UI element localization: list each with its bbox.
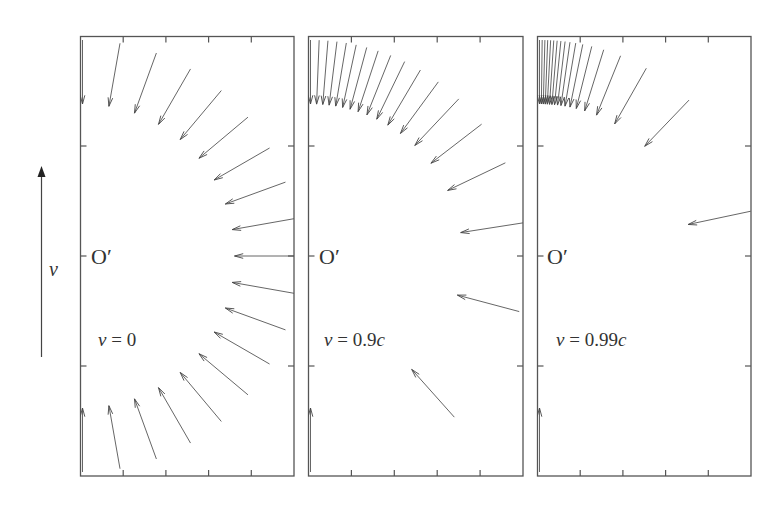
ray-arrows: [308, 40, 524, 472]
panel-v0: O′v = 0: [80, 37, 298, 477]
panel-v09c: O′v = 0.9c: [308, 37, 524, 477]
velocity-value-label: v = 0.99c: [556, 329, 627, 350]
arrowhead-icon: [214, 174, 223, 180]
aberration-figure: v O′v = 0O′v = 0.9cO′v = 0.99c: [0, 0, 784, 508]
arrowhead-icon: [448, 185, 457, 191]
arrowhead-icon: [377, 110, 383, 119]
origin-label: O′: [547, 244, 568, 269]
velocity-value-label: v = 0: [98, 329, 136, 350]
arrowhead-icon: [38, 166, 46, 177]
velocity-value-label: v = 0.9c: [324, 329, 385, 350]
arrowhead-icon: [159, 116, 165, 125]
ray-arrows: [80, 40, 298, 472]
arrowhead-icon: [214, 332, 223, 338]
arrowhead-icon: [388, 116, 394, 125]
origin-label: O′: [319, 244, 340, 269]
ray-arrows: [537, 40, 751, 472]
panel-frame: [309, 37, 524, 477]
velocity-direction-arrow: [38, 166, 46, 357]
panel-v099c: O′v = 0.99c: [537, 37, 751, 477]
arrowhead-icon: [615, 115, 621, 124]
origin-label: O′: [91, 244, 112, 269]
velocity-label: v: [49, 258, 58, 280]
arrowhead-icon: [159, 388, 165, 397]
